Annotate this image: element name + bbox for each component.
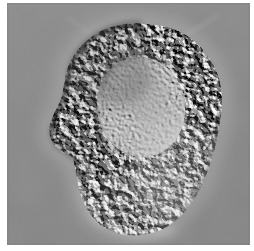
micrograph-field xyxy=(7,3,250,245)
sensor-grain xyxy=(7,3,250,245)
micrograph-canvas xyxy=(7,3,250,245)
image-viewport xyxy=(0,0,254,251)
